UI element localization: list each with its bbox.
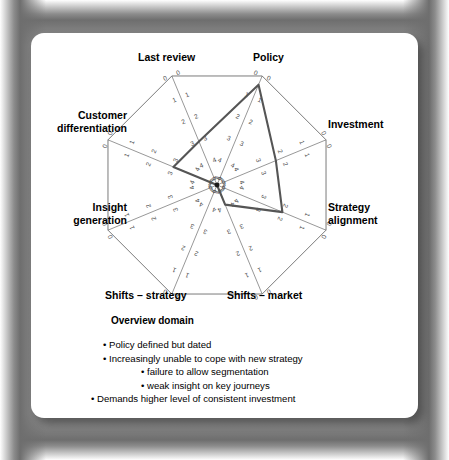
axis-label-customer-differentiation: Customer differentiation bbox=[23, 109, 127, 134]
radar-center-point bbox=[215, 183, 220, 188]
axis-label-shifts-market-text: Shifts – market bbox=[227, 289, 302, 301]
radar-scale-number: 0 bbox=[101, 143, 109, 149]
radar-scale-number: 4 bbox=[216, 206, 222, 214]
radar-scale-number: 3 bbox=[260, 194, 268, 200]
screenshot-root: 0011223344550011223344550011223344550011… bbox=[0, 0, 449, 460]
list-item: • Demands higher level of consistent inv… bbox=[91, 392, 418, 406]
axis-label-investment-text: Investment bbox=[328, 118, 383, 130]
radar-scale-number: 2 bbox=[193, 112, 199, 120]
axis-label-last-review: Last review bbox=[138, 51, 195, 64]
radar-scale-number: 1 bbox=[128, 139, 136, 145]
radar-scale-number: 0 bbox=[320, 234, 328, 240]
radar-scale-number: 2 bbox=[144, 161, 152, 167]
radar-scale-number: 2 bbox=[193, 250, 199, 258]
radar-scale-number: 3 bbox=[189, 223, 195, 231]
radar-scale-number: 1 bbox=[122, 152, 130, 158]
radar-scale-number: 1 bbox=[171, 266, 177, 274]
radar-scale-number: 0 bbox=[175, 69, 181, 77]
radar-scale-number: 3 bbox=[260, 170, 268, 176]
radar-scale-number: 0 bbox=[266, 74, 272, 82]
radar-scale-number: 1 bbox=[298, 225, 306, 231]
radar-scale-number: 2 bbox=[248, 118, 254, 126]
radar-scale-number: 2 bbox=[235, 250, 241, 258]
overview-domain-title: Overview domain bbox=[111, 315, 418, 326]
radar-scale-number: 2 bbox=[180, 117, 186, 125]
axis-label-shifts-strategy-text: Shifts – strategy bbox=[105, 289, 187, 301]
radar-scale-number: 1 bbox=[171, 96, 177, 104]
radar-scale-number: 2 bbox=[144, 203, 152, 209]
radar-scale-number: 3 bbox=[226, 134, 232, 142]
radar-scale-number: 1 bbox=[244, 272, 250, 280]
list-item: • weak insight on key journeys bbox=[141, 379, 418, 393]
axis-label-investment: Investment bbox=[328, 118, 383, 131]
radar-scale-number: 0 bbox=[162, 74, 168, 82]
bullet-list: • Policy defined but dated • Increasingl… bbox=[31, 338, 418, 406]
radar-scale-number: 0 bbox=[320, 130, 328, 136]
radar-scale-number: 1 bbox=[184, 272, 190, 280]
axis-label-strategy-alignment-line1: Strategy bbox=[328, 201, 420, 214]
axis-label-policy: Policy bbox=[253, 51, 284, 64]
radar-scale-number: 3 bbox=[239, 139, 245, 147]
radar-scale-number: 1 bbox=[128, 225, 136, 231]
axis-label-customer-differentiation-line2: differentiation bbox=[23, 122, 127, 135]
radar-scale-number: 4 bbox=[238, 179, 246, 185]
radar-scale-number: 4 bbox=[217, 156, 223, 164]
list-item: • failure to allow segmentation bbox=[141, 365, 418, 379]
axis-label-insight-generation-line2: generation bbox=[35, 214, 127, 227]
axis-label-shifts-market: Shifts – market bbox=[227, 289, 302, 302]
radar-scale-number: 4 bbox=[188, 179, 196, 185]
overview-domain-block: Overview domain • Policy defined but dat… bbox=[31, 315, 418, 406]
radar-scale-number: 3 bbox=[166, 194, 174, 200]
radar-scale-number: 2 bbox=[180, 244, 186, 252]
radar-scale-number: 2 bbox=[247, 245, 253, 253]
radar-scale-number: 2 bbox=[282, 161, 290, 167]
radar-scale-number: 4 bbox=[233, 166, 241, 172]
radar-scale-number: 3 bbox=[238, 223, 244, 231]
radar-scale-number: 4 bbox=[211, 156, 217, 164]
radar-data-polygon bbox=[173, 85, 282, 212]
radar-scale-number: 1 bbox=[184, 90, 190, 98]
list-item: • Increasingly unable to cope with new s… bbox=[103, 352, 418, 366]
radar-scale-number: 2 bbox=[149, 215, 157, 221]
radar-scale-number: 3 bbox=[202, 228, 208, 236]
radar-scale-number: 4 bbox=[188, 184, 196, 190]
axis-label-customer-differentiation-line1: Customer bbox=[23, 109, 127, 122]
radar-scale-number: 1 bbox=[257, 266, 263, 274]
radar-scale-number: 3 bbox=[226, 228, 232, 236]
radar-scale-number: 0 bbox=[253, 69, 259, 77]
axis-label-strategy-alignment: Strategy alignment bbox=[328, 201, 420, 226]
radar-scale-number: 2 bbox=[235, 112, 241, 120]
radar-scale-number: 4 bbox=[193, 197, 201, 203]
radar-scale-number: 1 bbox=[304, 152, 312, 158]
radar-scale-number: 2 bbox=[150, 148, 158, 154]
radar-scale-number: 1 bbox=[304, 212, 312, 218]
radar-scale-number: 3 bbox=[166, 170, 174, 176]
axis-label-shifts-strategy: Shifts – strategy bbox=[105, 289, 187, 302]
radar-scale-number: 0 bbox=[325, 143, 333, 149]
radar-scale-number: 4 bbox=[211, 206, 217, 214]
radar-scale-number: 4 bbox=[198, 161, 204, 169]
axis-label-insight-generation: Insight generation bbox=[35, 201, 127, 226]
radar-scale-number: 1 bbox=[298, 139, 306, 145]
radar-chart-area: 0011223344550011223344550011223344550011… bbox=[31, 33, 418, 418]
axis-label-last-review-text: Last review bbox=[138, 51, 195, 63]
radar-scale-number: 0 bbox=[106, 234, 114, 240]
radar-scale-number: 4 bbox=[238, 185, 246, 191]
axis-label-policy-text: Policy bbox=[253, 51, 284, 63]
radar-scale-number: 3 bbox=[255, 157, 263, 163]
radar-scale-number: 2 bbox=[277, 148, 285, 154]
list-item: • Policy defined but dated bbox=[103, 338, 418, 352]
axis-label-insight-generation-line1: Insight bbox=[35, 201, 127, 214]
axis-label-strategy-alignment-line2: alignment bbox=[328, 214, 420, 227]
radar-scale-number: 3 bbox=[171, 206, 179, 212]
radar-scale-number: 2 bbox=[276, 216, 284, 222]
